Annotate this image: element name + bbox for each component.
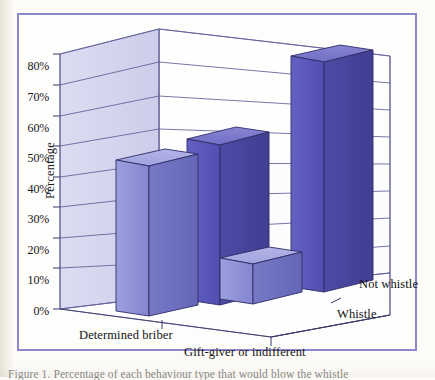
y-tick-label-80: 80% bbox=[5, 59, 49, 74]
bar-gift-giver-not-whistle bbox=[291, 45, 373, 292]
y-tick-label-20: 20% bbox=[5, 243, 49, 258]
chart-plot-area: Percentage 80% 70% 60% 50% 40% 30% 20% 1… bbox=[19, 15, 415, 349]
figure-frame: Percentage 80% 70% 60% 50% 40% 30% 20% 1… bbox=[17, 13, 417, 351]
x-category-label-determined-briber: Determined briber bbox=[79, 328, 173, 343]
three-d-bar-chart bbox=[19, 15, 415, 349]
y-tick-label-60: 60% bbox=[5, 121, 49, 136]
x-category-label-gift-giver: Gift-giver or indifferent bbox=[184, 345, 306, 360]
y-tick-label-70: 70% bbox=[5, 90, 49, 105]
y-tick-label-50: 50% bbox=[5, 151, 49, 166]
depth-label-not-whistle: Not whistle bbox=[359, 277, 418, 292]
depth-label-whistle: Whistle bbox=[337, 307, 377, 322]
y-tick-label-10: 10% bbox=[5, 273, 49, 288]
y-tick-label-0: 0% bbox=[5, 304, 49, 319]
y-tick-label-30: 30% bbox=[5, 212, 49, 227]
y-tick-label-40: 40% bbox=[5, 182, 49, 197]
bar-gift-giver-whistle bbox=[220, 247, 302, 304]
bar-determined-briber-whistle bbox=[116, 149, 198, 316]
figure-caption: Figure 1. Percentage of each behaviour t… bbox=[8, 368, 349, 380]
